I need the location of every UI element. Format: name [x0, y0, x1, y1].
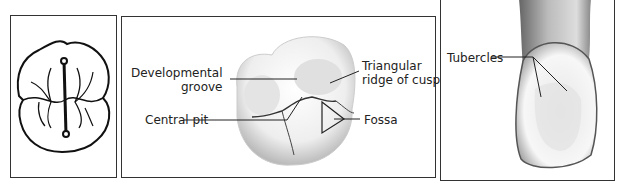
label-triangular-ridge-1: Triangular [362, 59, 422, 73]
label-central-pit: Central pit [145, 113, 208, 127]
molar-panel: Developmental groove Central pit Triangu… [121, 16, 436, 178]
label-developmental-groove-1: Developmental [131, 66, 222, 80]
incisor-illustration [441, 0, 616, 182]
label-developmental-groove-2: groove [181, 80, 222, 94]
label-fossa: Fossa [364, 113, 398, 127]
label-triangular-ridge-2: ridge of cusp [362, 73, 440, 87]
tooth-outline-drawing [11, 16, 118, 179]
label-tubercles: Tubercles [447, 51, 503, 65]
incisor-panel: Tubercles [440, 0, 615, 181]
molar-illustration [122, 17, 437, 179]
occlusal-outline-panel [10, 15, 117, 178]
